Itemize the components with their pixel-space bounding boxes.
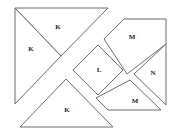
piece-label-m-top: M (129, 33, 136, 41)
tangram-canvas: K K K L M N M (0, 0, 180, 134)
piece-label-m-bottom: M (132, 97, 139, 105)
piece-label-k-left: K (28, 45, 34, 53)
piece-label-l-square: L (97, 66, 102, 74)
piece-label-n: N (150, 69, 155, 77)
piece-label-k-bottom: K (64, 106, 70, 114)
piece-label-k-top: K (55, 23, 61, 31)
tangram-figure: K K K L M N M (0, 0, 180, 134)
